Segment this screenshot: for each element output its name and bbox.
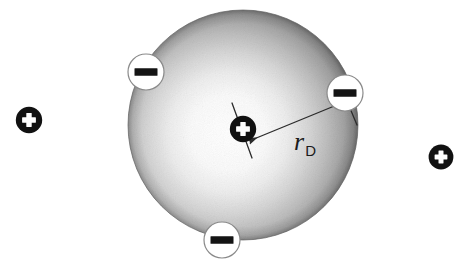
figure-canvas: rD – – – + (0, 0, 469, 268)
minus-icon (135, 68, 158, 76)
negative-charge-bottom: – (204, 222, 240, 258)
radius-label-subscript: D (305, 142, 316, 159)
minus-icon (334, 89, 357, 97)
plus-icon-vertical (439, 151, 444, 164)
external-positive-charge-left: + (16, 107, 42, 133)
debye-shielding-figure: rD – – – + (0, 0, 469, 268)
plus-icon-vertical (240, 122, 245, 136)
minus-icon (211, 236, 234, 244)
plus-icon-vertical (26, 113, 31, 127)
center-positive-charge: + (230, 116, 256, 142)
negative-charge-right: – (327, 75, 363, 111)
radius-label-symbol: r (294, 127, 305, 156)
negative-charge-top-left: – (128, 54, 164, 90)
external-positive-charge-right: + (429, 145, 454, 170)
